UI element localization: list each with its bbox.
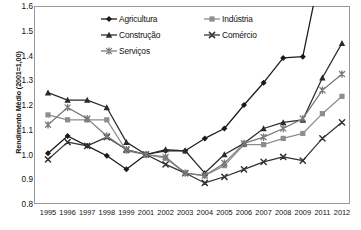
x-axis-tick: 2012	[334, 208, 350, 217]
x-axis-tick: 1997	[79, 208, 95, 217]
x-axis-tick: 2004	[197, 208, 213, 217]
legend-marker-triangle-icon	[100, 30, 118, 40]
x-axis-tick: 1996	[59, 208, 75, 217]
y-axis-tick: 1.6	[11, 2, 33, 11]
legend-marker-x-icon	[203, 30, 221, 40]
legend-item-agricultura: Agricultura	[100, 14, 157, 24]
legend-label: Indústria	[222, 14, 253, 24]
x-axis-tick: 2007	[255, 208, 271, 217]
legend-marker-square-icon	[203, 14, 221, 24]
legend-item-comrcio: Comércio	[203, 30, 257, 40]
series-indstria	[45, 94, 344, 178]
y-axis-tick: 0.9	[11, 175, 33, 184]
x-axis-tick: 2005	[216, 208, 232, 217]
series-comrcio	[45, 120, 344, 186]
x-axis-tick: 2003	[177, 208, 193, 217]
y-axis-tick: 1.5	[11, 26, 33, 35]
x-axis-tick: 1999	[118, 208, 134, 217]
y-axis-tick: 0.8	[11, 200, 33, 209]
x-axis-tick: 2006	[236, 208, 252, 217]
x-axis-tick: 2011	[314, 208, 330, 217]
x-axis-tick: 1995	[40, 208, 56, 217]
legend-label: Construção	[119, 30, 160, 40]
x-axis-tick: 1998	[99, 208, 115, 217]
x-axis-tick: 2009	[295, 208, 311, 217]
legend-item-indstria: Indústria	[203, 14, 253, 24]
y-axis-tick-labels: 1.61.51.41.31.21.11.00.90.8	[6, 0, 33, 230]
legend-label: Agricultura	[119, 14, 157, 24]
legend-marker-diamond-icon	[100, 14, 118, 24]
y-axis-tick: 1.4	[11, 51, 33, 60]
y-axis-tick: 1.3	[11, 76, 33, 85]
y-axis-tick: 1.0	[11, 150, 33, 159]
x-axis-tick: 2002	[157, 208, 173, 217]
legend-label: Comércio	[222, 30, 257, 40]
legend-item-construo: Construção	[100, 30, 160, 40]
y-axis-tick: 1.2	[11, 101, 33, 110]
series-construo	[45, 40, 345, 176]
legend-marker-star-icon	[100, 46, 118, 56]
x-axis-tick: 2001	[138, 208, 154, 217]
legend-label: Serviços	[119, 46, 150, 56]
x-axis-tick: 2008	[275, 208, 291, 217]
legend-item-servios: Serviços	[100, 46, 150, 56]
y-axis-tick: 1.1	[11, 125, 33, 134]
line-chart: Rendimento Médio (2001=1,00) 1.61.51.41.…	[0, 0, 361, 230]
chart-legend: AgriculturaIndústriaConstruçãoComércioSe…	[100, 14, 275, 60]
